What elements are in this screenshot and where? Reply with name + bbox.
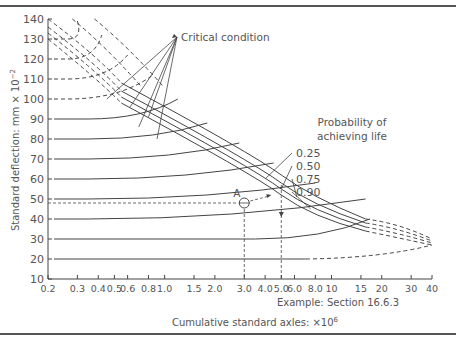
baseline-curve: [54, 143, 239, 159]
x-tick-label: 40: [426, 283, 438, 294]
legend-title-1: Probability of: [318, 116, 387, 128]
critical-leader-line: [139, 37, 177, 127]
critical-condition-label: Critical condition: [181, 31, 270, 43]
point-a-label: A: [233, 187, 241, 199]
x-tick-label: 3.0: [237, 283, 252, 294]
baseline-curve-dashed: [306, 245, 432, 259]
x-tick-label: 0.6: [120, 283, 135, 294]
y-tick-label: 40: [30, 213, 44, 226]
life-curve-dashed: [48, 19, 121, 83]
x-tick-label: 0.2: [40, 283, 55, 294]
example-caption: Example: Section 16.6.3: [277, 297, 399, 308]
y-tick-label: 90: [30, 113, 44, 126]
x-tick-label: 2.0: [207, 283, 222, 294]
x-tick-label: 15: [355, 283, 367, 294]
x-tick-label: 8.0: [308, 283, 323, 294]
y-tick-label: 130: [23, 33, 44, 46]
baseline-curve-dashed: [54, 21, 79, 39]
x-tick-label: 10: [325, 283, 337, 294]
life-curve-dashed: [95, 19, 164, 87]
life-curve-0.25: [121, 83, 365, 219]
y-tick-label: 80: [30, 133, 44, 146]
legend-entry: 0.90: [296, 186, 321, 199]
baseline-curve: [54, 163, 274, 179]
y-tick-label: 110: [23, 73, 44, 86]
x-tick-label: 1.5: [186, 283, 201, 294]
x-tick-label: 0.3: [70, 283, 85, 294]
arrow-down-icon: [279, 212, 284, 217]
x-tick-label: 4.0: [258, 283, 273, 294]
legend-title-2: achieving life: [317, 130, 387, 142]
x-tick-label: 20: [376, 283, 388, 294]
y-tick-label: 140: [23, 13, 44, 26]
deflection-life-chart: 1020304050607080901001101201301400.20.30…: [0, 0, 456, 340]
x-axis-label: Cumulative standard axles: ×106: [172, 316, 339, 328]
legend-entry: 0.75: [296, 173, 321, 186]
x-tick-label: 0.8: [141, 283, 156, 294]
life-curve-dashed: [48, 27, 121, 91]
y-tick-label: 100: [23, 93, 44, 106]
y-tick-label: 20: [30, 253, 44, 266]
guide-line-diagonal: [250, 196, 269, 201]
y-tick-label: 50: [30, 193, 44, 206]
x-tick-label: 0.4: [91, 283, 106, 294]
y-tick-label: 70: [30, 153, 44, 166]
x-tick-label: 30: [405, 283, 417, 294]
legend-entry: 0.25: [296, 147, 321, 160]
x-tick-label: 6.0: [287, 283, 302, 294]
y-axis-label: Standard deflection: mm × 10−2: [9, 69, 21, 231]
life-curve-dashed: [48, 33, 121, 97]
baseline-curve: [54, 99, 178, 119]
x-tick-label: 1.0: [157, 283, 172, 294]
y-tick-label: 30: [30, 233, 44, 246]
baseline-curve: [54, 219, 370, 239]
life-curve-dashed: [366, 223, 432, 241]
arrow-icon: [266, 194, 271, 198]
y-tick-label: 120: [23, 53, 44, 66]
legend-entry: 0.50: [296, 160, 321, 173]
y-tick-label: 60: [30, 173, 44, 186]
life-curve-dashed: [366, 231, 432, 245]
legend-leader-line: [281, 166, 292, 189]
